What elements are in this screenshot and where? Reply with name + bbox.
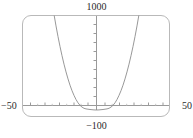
x-axis-min-label: −50 [1,101,17,111]
chart-page: 1000 −100 −50 50 [0,0,193,138]
plot-canvas [0,0,193,138]
y-axis-min-label: −100 [0,121,193,131]
x-axis-max-label: 50 [182,101,192,111]
y-axis-max-label: 1000 [0,2,193,12]
